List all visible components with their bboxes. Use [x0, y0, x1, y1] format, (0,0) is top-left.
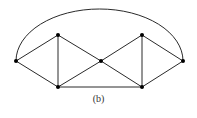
node-bottom-left: [56, 85, 60, 89]
edge-top-right-right: [142, 35, 183, 61]
node-center: [99, 59, 103, 63]
edge-bottom-left-center: [58, 61, 101, 87]
edge-center-bottom-right: [101, 61, 142, 87]
edge-top-left-center: [58, 35, 101, 61]
edge-center-top-right: [101, 35, 142, 61]
edge-bottom-right-right: [142, 61, 183, 87]
node-top-right: [140, 33, 144, 37]
edge-left-top-left: [16, 35, 58, 61]
graph-figure: (b): [0, 0, 197, 118]
graph-nodes: [14, 33, 185, 89]
outer-arc-edge: [16, 9, 183, 61]
node-top-left: [56, 33, 60, 37]
node-right: [181, 59, 185, 63]
figure-caption: (b): [0, 93, 197, 104]
node-bottom-right: [140, 85, 144, 89]
node-left: [14, 59, 18, 63]
edge-left-bottom-left: [16, 61, 58, 87]
